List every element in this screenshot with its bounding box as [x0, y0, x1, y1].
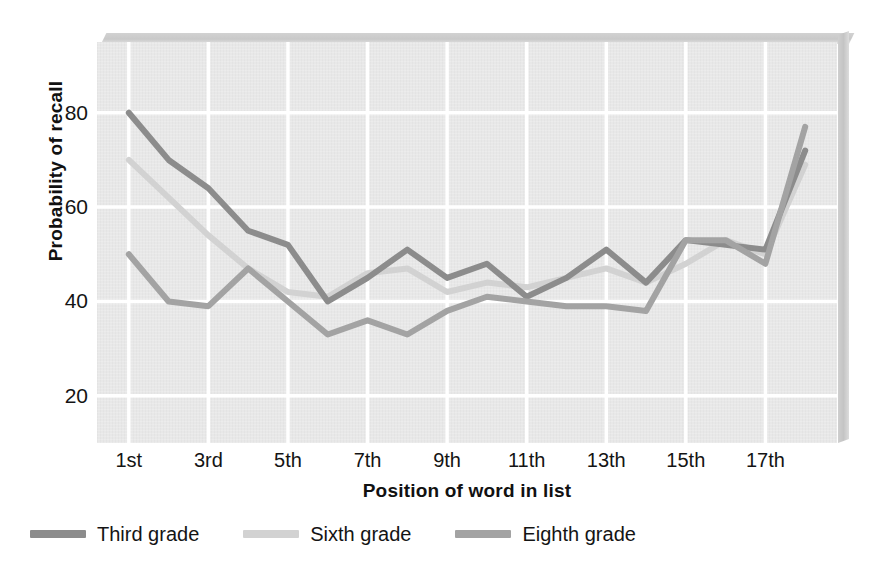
plot-3d-right-edge	[838, 31, 849, 443]
legend-item[interactable]: Eighth grade	[455, 524, 635, 544]
recall-line-chart: Probability of recall 20406080 1st3rd5th…	[0, 0, 873, 578]
y-tick-label: 20	[44, 385, 88, 406]
series-line-sixth-grade	[129, 160, 805, 297]
y-tick-label: 80	[44, 102, 88, 123]
x-tick-label: 7th	[333, 450, 403, 470]
legend-swatch-icon	[30, 530, 86, 538]
x-tick-label: 1st	[94, 450, 164, 470]
y-tick-label: 60	[44, 196, 88, 217]
x-tick-label: 13th	[571, 450, 641, 470]
series-lines	[97, 42, 837, 443]
legend-item[interactable]: Sixth grade	[243, 524, 411, 544]
chart-legend: Third gradeSixth gradeEighth grade	[30, 524, 636, 544]
x-tick-label: 15th	[651, 450, 721, 470]
x-tick-label: 3rd	[173, 450, 243, 470]
y-tick-label: 40	[44, 290, 88, 311]
legend-swatch-icon	[455, 530, 511, 538]
plot-shell	[97, 33, 849, 450]
legend-label: Sixth grade	[310, 524, 411, 544]
x-tick-label: 5th	[253, 450, 323, 470]
legend-label: Third grade	[97, 524, 199, 544]
x-tick-label: 11th	[492, 450, 562, 470]
legend-item[interactable]: Third grade	[30, 524, 199, 544]
x-axis-tick-labels: 1st3rd5th7th9th11th13th15th17th	[97, 450, 849, 480]
x-tick-label: 17th	[730, 450, 800, 470]
series-line-eighth-grade	[129, 127, 805, 335]
series-line-third-grade	[129, 113, 805, 302]
x-tick-label: 9th	[412, 450, 482, 470]
legend-label: Eighth grade	[522, 524, 635, 544]
legend-swatch-icon	[243, 530, 299, 538]
x-axis-title: Position of word in list	[97, 480, 837, 502]
y-axis-tick-labels: 20406080	[36, 0, 88, 578]
